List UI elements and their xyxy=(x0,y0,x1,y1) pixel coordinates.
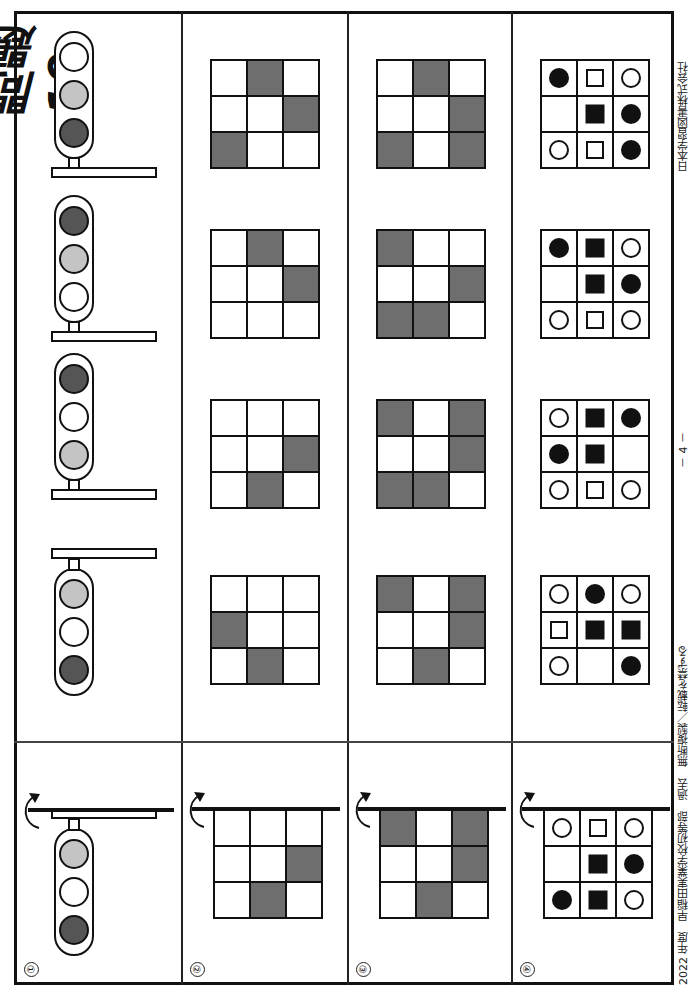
option-4-grid[interactable] xyxy=(376,575,486,685)
symbol-cell xyxy=(542,303,576,337)
symbol-cell xyxy=(614,61,648,95)
shaded-cell xyxy=(248,649,282,683)
symbol-cell xyxy=(614,649,648,683)
open-square-icon xyxy=(589,819,607,837)
option-4-grid[interactable] xyxy=(210,575,320,685)
symbol-cell xyxy=(617,883,651,917)
symbol-cell xyxy=(614,97,648,131)
option-3-grid[interactable] xyxy=(376,399,486,509)
filled-square-icon xyxy=(586,239,605,258)
symbol-cell xyxy=(617,811,651,845)
option-1-grid[interactable] xyxy=(210,59,320,169)
symbol-cell xyxy=(542,231,576,265)
blank-cell xyxy=(284,231,318,265)
blank-cell xyxy=(287,883,321,917)
lamp-dark xyxy=(60,656,88,684)
symbol-cell xyxy=(578,613,612,647)
filled-circle-icon xyxy=(621,408,641,428)
blank-cell xyxy=(381,883,415,917)
shaded-cell xyxy=(212,133,246,167)
shaded-cell xyxy=(450,97,484,131)
fold-hinge-bar xyxy=(358,807,506,811)
symbol-cell xyxy=(578,303,612,337)
row-divider xyxy=(347,11,349,985)
lamp-light xyxy=(60,580,88,608)
open-circle-icon xyxy=(621,238,641,258)
shaded-cell xyxy=(248,61,282,95)
filled-square-icon xyxy=(586,105,605,124)
blank-cell xyxy=(284,613,318,647)
example-traffic-light[interactable] xyxy=(27,805,167,989)
blank-cell xyxy=(212,649,246,683)
filled-square-icon xyxy=(586,409,605,428)
symbol-cell xyxy=(578,97,612,131)
option-4-grid[interactable] xyxy=(540,575,650,685)
shaded-cell xyxy=(450,613,484,647)
option-2-grid[interactable] xyxy=(210,229,320,339)
shaded-cell xyxy=(414,303,448,337)
filled-circle-icon xyxy=(621,274,641,294)
open-square-icon xyxy=(550,621,568,639)
shaded-cell xyxy=(450,401,484,435)
symbol-cell xyxy=(614,267,648,301)
blank-cell xyxy=(284,473,318,507)
option-2-grid[interactable] xyxy=(540,229,650,339)
symbol-cell xyxy=(542,577,576,611)
example-grid[interactable] xyxy=(543,809,653,919)
example-grid[interactable] xyxy=(379,809,489,919)
option-3-grid[interactable] xyxy=(540,399,650,509)
open-circle-icon xyxy=(549,408,569,428)
filled-circle-icon xyxy=(585,584,605,604)
symbol-cell xyxy=(545,847,579,881)
filled-square-icon xyxy=(589,891,608,910)
blank-cell xyxy=(212,577,246,611)
blank-cell xyxy=(212,231,246,265)
symbol-cell xyxy=(617,847,651,881)
blank-cell xyxy=(450,473,484,507)
symbol-cell xyxy=(542,267,576,301)
blank-cell xyxy=(417,811,451,845)
symbol-cell xyxy=(542,613,576,647)
shaded-cell xyxy=(378,231,412,265)
blank-cell xyxy=(284,303,318,337)
blank-cell xyxy=(417,847,451,881)
option-3-grid[interactable] xyxy=(210,399,320,509)
filled-square-icon xyxy=(586,445,605,464)
symbol-cell xyxy=(614,437,648,471)
option-4-traffic-light[interactable] xyxy=(27,545,167,745)
filled-circle-icon xyxy=(621,104,641,124)
shaded-cell xyxy=(453,847,487,881)
open-circle-icon xyxy=(624,818,644,838)
symbol-cell xyxy=(578,437,612,471)
filled-square-icon xyxy=(622,621,641,640)
option-1-grid[interactable] xyxy=(376,59,486,169)
blank-cell xyxy=(414,133,448,167)
option-3-traffic-light[interactable] xyxy=(27,350,167,550)
symbol-cell xyxy=(578,133,612,167)
filled-circle-icon xyxy=(549,444,569,464)
filled-circle-icon xyxy=(621,656,641,676)
blank-cell xyxy=(215,883,249,917)
option-1-grid[interactable] xyxy=(540,59,650,169)
filled-square-icon xyxy=(589,855,608,874)
blank-cell xyxy=(450,649,484,683)
option-2-grid[interactable] xyxy=(376,229,486,339)
footer-copyright: 2022 年度 早稲田実業学校初等部 過去 無断複製／転載を禁ずる xyxy=(676,535,692,985)
fold-hinge-bar xyxy=(522,807,670,811)
symbol-cell xyxy=(614,303,648,337)
example-grid[interactable] xyxy=(213,809,323,919)
shaded-cell xyxy=(378,401,412,435)
shaded-cell xyxy=(248,473,282,507)
open-circle-icon xyxy=(621,310,641,330)
symbol-cell xyxy=(542,133,576,167)
blank-cell xyxy=(251,847,285,881)
open-circle-icon xyxy=(621,480,641,500)
shaded-cell xyxy=(378,473,412,507)
row-number: ④ xyxy=(520,962,535,977)
symbol-cell xyxy=(614,133,648,167)
shaded-cell xyxy=(251,883,285,917)
blank-cell xyxy=(378,649,412,683)
blank-cell xyxy=(414,231,448,265)
blank-cell xyxy=(284,649,318,683)
shaded-cell xyxy=(284,97,318,131)
